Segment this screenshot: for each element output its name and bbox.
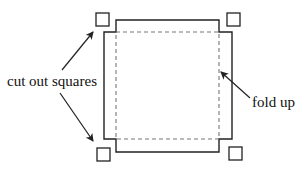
fold-up-label: fold up [252, 95, 295, 110]
cut-square-bottom-right [229, 147, 242, 160]
cut-square-bottom-left [97, 148, 110, 161]
fold-lines [116, 32, 219, 139]
cut-square-top-right [227, 13, 240, 26]
sheet-outline [104, 20, 232, 152]
arrow-to-fold-line [221, 72, 250, 98]
cut-out-squares-label: cut out squares [7, 74, 97, 89]
cut-square-top-left [96, 13, 109, 26]
arrow-to-bottom-left-square [60, 93, 93, 141]
arrow-to-top-left-square [62, 32, 93, 70]
